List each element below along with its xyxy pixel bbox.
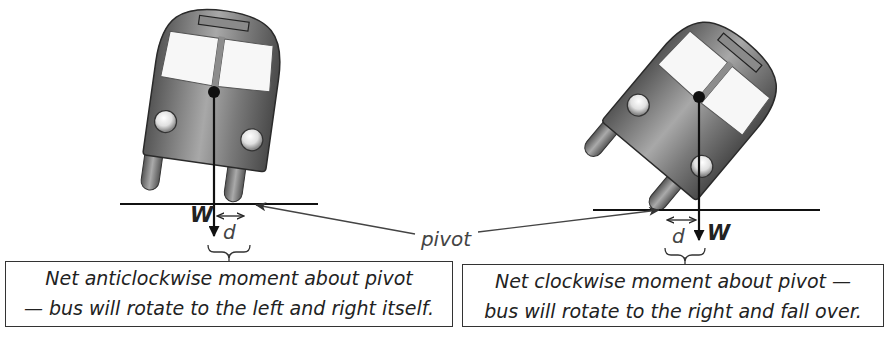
left-bus-icon [138,2,287,205]
pivot-pointer-left [256,205,415,234]
right-caption-box: Net clockwise moment about pivot — bus w… [462,264,884,327]
left-bus-window [160,31,218,86]
right-distance-label: d [672,224,685,248]
left-distance-label: d [223,220,236,244]
left-caption-box: Net anticlockwise moment about pivot — b… [5,261,453,327]
right-caption-line2: bus will rotate to the right and fall ov… [463,296,883,326]
right-centre-of-mass-dot [693,91,705,103]
left-caption-line2: — bus will rotate to the left and right … [6,293,452,323]
pivot-pointer-right [478,210,659,232]
left-bus-window [218,39,276,94]
right-bus-icon [580,3,796,227]
right-weight-label: W [707,221,731,245]
left-weight-label: W [190,203,214,227]
right-caption-line1: Net clockwise moment about pivot — [463,266,883,296]
left-centre-of-mass-dot [208,86,220,98]
pivot-label: pivot [420,227,472,251]
left-caption-line1: Net anticlockwise moment about pivot [6,263,452,293]
